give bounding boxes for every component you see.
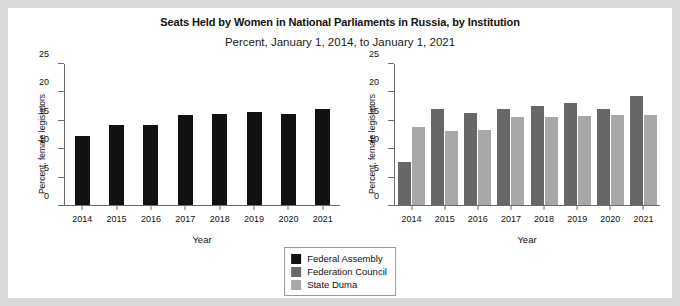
y-axis-tick-label: 5: [44, 163, 49, 173]
bar: [644, 115, 657, 205]
x-axis-tick-label: 2021: [313, 214, 333, 224]
x-axis-tick-label: 2016: [468, 214, 488, 224]
bar: [445, 131, 458, 205]
bar: [178, 115, 193, 205]
y-axis-tick-label: 10: [39, 134, 49, 144]
bar: [478, 130, 491, 205]
bar: [247, 112, 262, 205]
bar: [212, 114, 227, 205]
left-bars-container: 20142015201620172018201920202021: [65, 64, 340, 205]
x-axis-tick: [477, 205, 478, 210]
bar: [564, 103, 577, 205]
legend-label: Federation Council: [307, 266, 387, 277]
bar-group: 2014: [65, 64, 99, 205]
y-axis-tick: 0: [388, 205, 394, 206]
x-axis-tick: [643, 205, 644, 210]
left-plot-area: 20142015201620172018201920202021 0510152…: [64, 64, 340, 206]
bar-group: 2018: [528, 64, 561, 205]
legend-item: Federation Council: [291, 265, 387, 278]
legend-swatch-icon: [291, 280, 301, 290]
x-axis-tick: [544, 205, 545, 210]
bar: [281, 114, 296, 205]
right-plot-area: 20142015201620172018201920202021 0510152…: [394, 64, 660, 206]
y-axis-tick: 20: [388, 91, 394, 92]
chart-figure: Seats Held by Women in National Parliame…: [8, 8, 672, 298]
left-x-axis-label: Year: [64, 234, 340, 245]
x-axis-tick-label: 2018: [210, 214, 230, 224]
y-axis-tick: 10: [58, 148, 64, 149]
bar-group: 2020: [271, 64, 305, 205]
x-axis-tick: [185, 205, 186, 210]
right-bars-container: 20142015201620172018201920202021: [395, 64, 660, 205]
bar: [464, 113, 477, 205]
y-axis-tick-label: 10: [369, 134, 379, 144]
x-axis-tick-label: 2015: [435, 214, 455, 224]
bar-group: 2014: [395, 64, 428, 205]
y-axis-tick-label: 25: [369, 49, 379, 59]
legend-swatch-icon: [291, 254, 301, 264]
x-axis-tick-label: 2021: [633, 214, 653, 224]
y-axis-tick: 20: [58, 91, 64, 92]
x-axis-tick: [510, 205, 511, 210]
right-x-axis-line: [394, 205, 660, 206]
bar-group: 2018: [203, 64, 237, 205]
bar: [578, 116, 591, 205]
y-axis-tick-label: 15: [369, 106, 379, 116]
x-axis-tick-label: 2020: [278, 214, 298, 224]
y-axis-tick-label: 20: [39, 77, 49, 87]
y-axis-tick-label: 20: [369, 77, 379, 87]
bar: [611, 115, 624, 205]
y-axis-tick: 0: [58, 205, 64, 206]
x-axis-tick-label: 2016: [141, 214, 161, 224]
right-chart-panel: Percent, female legislators 201420152016…: [348, 56, 668, 231]
x-axis-tick-label: 2018: [534, 214, 554, 224]
legend-item: Federal Assembly: [291, 252, 387, 265]
bar-group: 2021: [627, 64, 660, 205]
y-axis-tick-label: 25: [39, 49, 49, 59]
y-axis-tick-label: 15: [39, 106, 49, 116]
y-axis-tick: 15: [388, 120, 394, 121]
x-axis-tick: [219, 205, 220, 210]
bar-group: 2019: [561, 64, 594, 205]
legend-swatch-icon: [291, 267, 301, 277]
bar: [597, 109, 610, 205]
y-axis-tick: 25: [58, 63, 64, 64]
bar-group: 2015: [428, 64, 461, 205]
legend-item: State Duma: [291, 278, 387, 291]
x-axis-tick-label: 2014: [402, 214, 422, 224]
x-axis-tick: [288, 205, 289, 210]
x-axis-tick-label: 2019: [567, 214, 587, 224]
bar-group: 2016: [134, 64, 168, 205]
legend-label: Federal Assembly: [307, 253, 383, 264]
bar: [545, 117, 558, 205]
x-axis-tick: [322, 205, 323, 210]
bar: [412, 127, 425, 205]
x-axis-tick: [82, 205, 83, 210]
legend-label: State Duma: [307, 279, 357, 290]
x-axis-tick-label: 2017: [501, 214, 521, 224]
x-axis-tick-label: 2014: [72, 214, 92, 224]
x-axis-tick: [150, 205, 151, 210]
bar-group: 2021: [306, 64, 340, 205]
y-axis-tick: 25: [388, 63, 394, 64]
x-axis-tick-label: 2015: [107, 214, 127, 224]
bar: [630, 96, 643, 205]
x-axis-tick: [254, 205, 255, 210]
bar: [315, 109, 330, 205]
bar: [143, 125, 158, 205]
bar-group: 2017: [494, 64, 527, 205]
bar-group: 2020: [594, 64, 627, 205]
chart-title: Seats Held by Women in National Parliame…: [8, 16, 672, 28]
bar: [497, 109, 510, 205]
y-axis-tick: 5: [388, 177, 394, 178]
right-x-axis-label: Year: [394, 234, 660, 245]
y-axis-tick-label: 0: [44, 191, 49, 201]
left-x-axis-line: [64, 205, 340, 206]
x-axis-tick: [116, 205, 117, 210]
bar-group: 2016: [461, 64, 494, 205]
bar-group: 2017: [168, 64, 202, 205]
x-axis-tick-label: 2019: [244, 214, 264, 224]
left-chart-panel: Percent, female legislators 201420152016…: [18, 56, 348, 231]
y-axis-tick: 15: [58, 120, 64, 121]
x-axis-tick: [411, 205, 412, 210]
